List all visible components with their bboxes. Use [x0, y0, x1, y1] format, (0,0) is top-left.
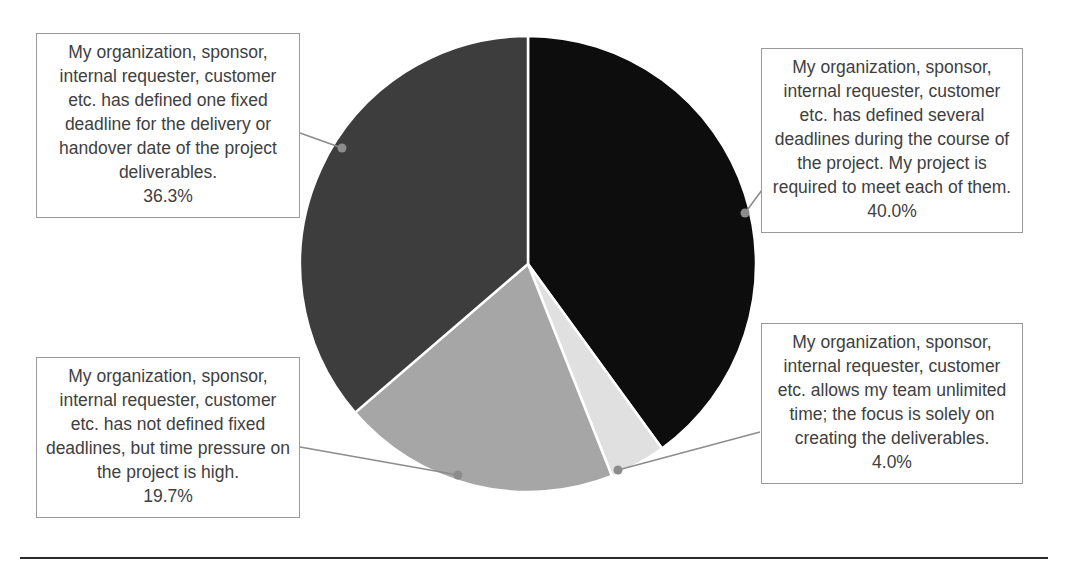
callout-text: My organization, sponsor, internal reque… — [59, 42, 277, 182]
callout-text: My organization, sponsor, internal reque… — [778, 332, 1007, 448]
callout-one-fixed-deadline: My organization, sponsor, internal reque… — [36, 33, 300, 218]
bottom-divider — [20, 557, 1048, 559]
pie-slices — [300, 36, 756, 492]
callout-percent: 36.3% — [45, 185, 291, 209]
callout-text: My organization, sponsor, internal reque… — [773, 57, 1011, 197]
leader-unlimited-time-dot — [614, 466, 623, 475]
callout-percent: 19.7% — [45, 485, 291, 509]
callout-text: My organization, sponsor, internal reque… — [46, 366, 290, 482]
callout-no-fixed-deadlines: My organization, sponsor, internal reque… — [36, 357, 300, 518]
callout-percent: 40.0% — [770, 200, 1014, 224]
callout-several-deadlines: My organization, sponsor, internal reque… — [761, 48, 1023, 233]
callout-unlimited-time: My organization, sponsor, internal reque… — [761, 323, 1023, 484]
chart-canvas: My organization, sponsor, internal reque… — [0, 0, 1068, 577]
leader-no-fixed-deadlines-dot — [454, 471, 463, 480]
callout-percent: 4.0% — [770, 451, 1014, 475]
leader-several-deadlines-dot — [741, 209, 750, 218]
leader-one-fixed-deadline-dot — [338, 144, 347, 153]
